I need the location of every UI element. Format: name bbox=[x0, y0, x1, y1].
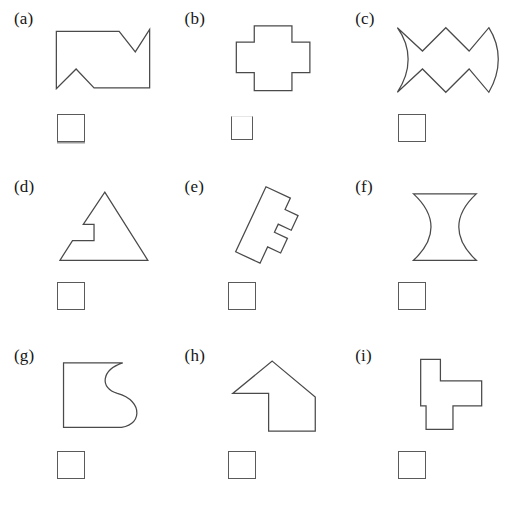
panel-label-e: (e) bbox=[185, 178, 204, 195]
panel-c: (c) bbox=[341, 0, 512, 168]
answer-box-h[interactable] bbox=[228, 451, 256, 479]
answer-box-g[interactable] bbox=[57, 451, 85, 479]
figure-sheet: (a) (b) (c) bbox=[0, 0, 512, 505]
shape-i-path bbox=[421, 359, 482, 429]
shape-g bbox=[42, 351, 164, 443]
shape-e-rotation-group bbox=[235, 187, 303, 269]
panel-label-g: (g) bbox=[14, 347, 34, 364]
panel-b: (b) bbox=[171, 0, 342, 168]
answer-box-f[interactable] bbox=[398, 282, 426, 310]
panel-label-c: (c) bbox=[355, 10, 374, 27]
shape-a-path bbox=[56, 30, 149, 89]
answer-box-c[interactable] bbox=[398, 114, 426, 142]
panel-g: (g) bbox=[0, 337, 171, 505]
shape-d bbox=[42, 182, 164, 274]
shape-h bbox=[213, 351, 335, 443]
shape-c-svg bbox=[383, 14, 505, 106]
answer-box-a[interactable] bbox=[57, 114, 85, 142]
panel-f: (f) bbox=[341, 168, 512, 336]
shape-d-path bbox=[60, 192, 148, 260]
shape-e-svg bbox=[213, 182, 335, 274]
shape-f-path bbox=[414, 194, 477, 260]
panel-grid: (a) (b) (c) bbox=[0, 0, 512, 505]
panel-e: (e) bbox=[171, 168, 342, 336]
shape-c bbox=[383, 14, 505, 106]
panel-label-h: (h) bbox=[185, 347, 205, 364]
panel-d: (d) bbox=[0, 168, 171, 336]
shape-a bbox=[42, 14, 164, 106]
shape-g-svg bbox=[42, 351, 164, 443]
shape-f bbox=[383, 182, 505, 274]
shape-i-svg bbox=[383, 351, 505, 443]
shape-c-path bbox=[398, 28, 499, 93]
answer-box-i[interactable] bbox=[398, 451, 426, 479]
panel-a: (a) bbox=[0, 0, 171, 168]
panel-label-b: (b) bbox=[185, 10, 205, 27]
panel-label-f: (f) bbox=[355, 178, 373, 195]
shape-i bbox=[383, 351, 505, 443]
panel-label-d: (d) bbox=[14, 178, 34, 195]
shape-h-path bbox=[232, 361, 315, 431]
panel-h: (h) bbox=[171, 337, 342, 505]
shape-b-svg bbox=[213, 14, 335, 106]
panel-i: (i) bbox=[341, 337, 512, 505]
shape-d-svg bbox=[42, 182, 164, 274]
panel-label-a: (a) bbox=[14, 10, 33, 27]
answer-box-b[interactable] bbox=[231, 116, 253, 140]
panel-label-i: (i) bbox=[355, 347, 372, 364]
answer-box-d[interactable] bbox=[57, 282, 85, 310]
shape-e-path bbox=[235, 187, 303, 269]
shape-a-svg bbox=[42, 14, 164, 106]
shape-g-path bbox=[64, 363, 137, 428]
shape-e bbox=[213, 182, 335, 274]
shape-f-svg bbox=[383, 182, 505, 274]
shape-b-path bbox=[236, 26, 310, 91]
shape-b bbox=[213, 14, 335, 106]
shape-h-svg bbox=[213, 351, 335, 443]
answer-box-e[interactable] bbox=[228, 282, 256, 310]
